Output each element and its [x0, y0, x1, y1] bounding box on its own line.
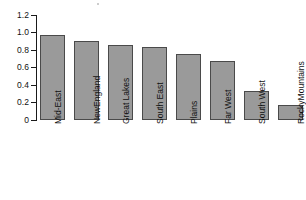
- x-axis-label-line: Mountains: [296, 61, 306, 100]
- x-axis-label-line: New: [92, 107, 102, 124]
- x-axis-label-line: South West: [257, 80, 267, 124]
- x-axis-label-line: Rocky: [296, 100, 306, 124]
- x-axis-label-line: South East: [155, 82, 165, 124]
- x-axis-label-line: Plains: [189, 101, 199, 124]
- plot-area: 00.20.40.60.81.01.2 Mid-EastNewEnglandGr…: [0, 0, 306, 200]
- x-axis-label-line: Far West: [223, 90, 233, 124]
- x-axis-label-line: England: [92, 76, 102, 107]
- bar-chart: 00.20.40.60.81.01.2 Mid-EastNewEnglandGr…: [0, 0, 306, 200]
- x-axis-label-line: Mid-East: [53, 90, 63, 124]
- x-axis-label-line: Great Lakes: [121, 78, 131, 124]
